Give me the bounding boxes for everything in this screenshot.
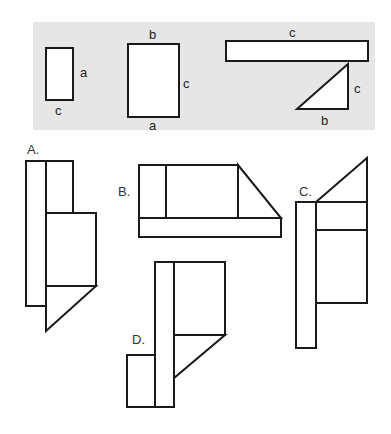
label-small-rect-side: a	[80, 65, 88, 80]
option-a-small-rect	[46, 161, 73, 213]
label-triangle-bottom: b	[321, 113, 328, 128]
option-d[interactable]: D.	[127, 262, 225, 407]
option-c-long-strip	[296, 202, 316, 348]
option-a-large-rect	[46, 213, 96, 286]
option-a[interactable]: A.	[26, 142, 96, 331]
option-d-small-rect	[127, 355, 155, 407]
option-a-label: A.	[27, 142, 39, 157]
option-c-label: C.	[299, 184, 312, 199]
label-large-rect-top: b	[149, 27, 156, 42]
option-a-triangle	[46, 286, 96, 331]
option-b-long-strip	[139, 218, 281, 237]
label-long-rect-top: c	[289, 25, 296, 40]
label-small-rect-bottom: c	[55, 103, 62, 118]
option-b-triangle	[238, 165, 281, 218]
label-large-rect-bottom: a	[149, 118, 157, 133]
option-d-triangle	[174, 335, 225, 378]
piece-small-rectangle	[46, 48, 73, 100]
puzzle-diagram: a c b c a c c b A. B. C. D.	[0, 0, 391, 434]
given-pieces-panel: a c b c a c c b	[33, 22, 375, 133]
option-c-large-rect	[316, 230, 367, 303]
label-triangle-side: c	[354, 81, 361, 96]
option-b-label: B.	[118, 184, 130, 199]
option-a-long-strip	[26, 161, 46, 306]
option-d-large-rect	[174, 262, 225, 335]
option-c-triangle	[316, 158, 367, 202]
piece-long-rectangle	[226, 41, 368, 61]
label-large-rect-side: c	[183, 76, 190, 91]
option-d-label: D.	[132, 332, 145, 347]
option-d-long-strip	[155, 262, 174, 407]
option-b[interactable]: B.	[118, 165, 281, 237]
piece-large-rectangle	[128, 44, 179, 117]
option-b-large-rect	[166, 165, 238, 218]
option-c[interactable]: C.	[296, 158, 367, 348]
option-c-small-rect	[316, 202, 367, 230]
option-b-small-rect	[139, 165, 166, 218]
